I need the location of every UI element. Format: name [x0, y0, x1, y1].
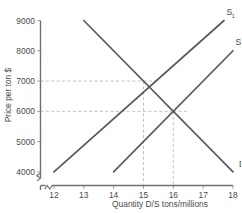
x-tick-label: 15: [139, 190, 149, 200]
y-axis-title: Price per ton $: [3, 67, 13, 122]
curve-S1: [54, 21, 224, 172]
curve-label-text-D: D: [239, 159, 241, 169]
y-tick-label: 7000: [16, 76, 35, 86]
curve-label-sub-S1: 1: [232, 13, 235, 19]
y-tick-labels-group: 400050006000700080009000: [16, 16, 35, 177]
curve-label-S2: S2: [236, 37, 242, 49]
x-tick-label: 14: [109, 190, 119, 200]
y-tick-label: 4000: [16, 167, 35, 177]
x-tick-label: 12: [49, 190, 59, 200]
curve-label-D: D: [239, 159, 241, 169]
x-axis-title: Quantity D/S tons/millions: [112, 199, 208, 209]
y-tick-label: 6000: [16, 106, 35, 116]
x-tick-label: 17: [198, 190, 208, 200]
y-tick-label: 5000: [16, 137, 35, 147]
tick-marks-group: [37, 21, 233, 189]
x-tick-labels-group: 12131415161718: [49, 190, 238, 200]
y-tick-label: 9000: [16, 16, 35, 26]
supply-demand-chart: 400050006000700080009000 12131415161718 …: [0, 0, 241, 213]
curve-D: [84, 21, 233, 172]
x-tick-label: 18: [228, 190, 238, 200]
curves-group: [54, 21, 233, 172]
chart-canvas: 400050006000700080009000 12131415161718 …: [0, 0, 241, 213]
curve-labels-group: DS1S2: [227, 7, 241, 169]
axes-group: [37, 21, 233, 190]
guide-lines-group: [41, 81, 188, 185]
y-tick-label: 8000: [16, 46, 35, 56]
x-tick-label: 16: [169, 190, 179, 200]
x-tick-label: 13: [79, 190, 89, 200]
curve-label-S1: S1: [227, 7, 235, 19]
